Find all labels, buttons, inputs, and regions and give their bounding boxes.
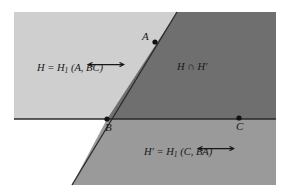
- region-label-intersection: H ∩ H′: [177, 62, 207, 73]
- line-notation-BA: BA: [196, 146, 209, 158]
- point-label-A: A: [142, 31, 149, 42]
- region-label-H: H = H1 (A, BC): [37, 62, 103, 74]
- line-notation-BC: BC: [86, 62, 99, 74]
- double-headed-arrow-icon: [86, 62, 126, 67]
- point-A-dot: [152, 39, 157, 44]
- figure-canvas: [0, 0, 288, 193]
- region-label-Hprime-prefix: H′ = H: [144, 146, 174, 157]
- point-label-B: B: [105, 122, 112, 133]
- region-label-Hprime-arg1: C: [184, 146, 191, 157]
- double-headed-arrow-icon: [196, 146, 236, 151]
- geometry-figure: A B C H = H1 (A, BC) H ∩ H′ H′ = H1 (C, …: [0, 0, 288, 193]
- region-label-Hprime: H′ = H1 (C, BA): [144, 146, 212, 158]
- point-label-C: C: [236, 121, 243, 132]
- region-label-H-prefix: H = H: [37, 62, 65, 73]
